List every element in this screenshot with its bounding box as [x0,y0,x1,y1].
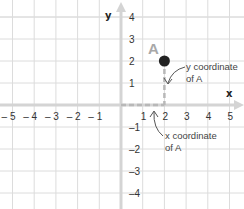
y-tick-label: –3 [129,166,141,177]
y-tick-label: 2 [129,56,135,67]
x-tick-label: – 5 [2,111,16,122]
x-tick-label: 1 [141,111,147,122]
y-tick-label: –1 [129,122,141,133]
y-tick-label: –2 [129,144,141,155]
x-axis-label: x [226,88,233,99]
y-tick-label: 3 [129,34,135,45]
x-tick-label: – 2 [67,111,81,122]
point-a-dot [159,56,170,67]
coordinate-plane-diagram: x y – 5– 4– 3– 2– 1123454321–1–2–3–4 A y… [0,0,244,209]
x-axis-arrow-icon [234,100,244,110]
y-coordinate-label-line2: of A [186,73,203,84]
y-tick-label: 4 [129,12,135,23]
point-a: A [148,40,170,67]
coordinate-plane: x y – 5– 4– 3– 2– 1123454321–1–2–3–4 A y… [0,0,244,209]
y-tick-label: –4 [129,188,141,199]
point-label: A [148,40,159,57]
x-tick-label: 5 [228,111,234,122]
x-coordinate-label-line1: x coordinate [165,130,217,141]
x-coordinate-label-line2: of A [165,142,182,153]
y-tick-label: 1 [129,78,135,89]
x-tick-label: 2 [162,111,168,122]
x-tick-label: – 3 [45,111,59,122]
x-tick-label: – 4 [23,111,37,122]
x-tick-label: – 1 [88,111,102,122]
x-tick-label: 3 [184,111,190,122]
y-coordinate-label-line1: y coordinate [186,61,238,72]
y-coordinate-annotation: y coordinate of A [164,61,238,84]
x-tick-label: 4 [206,111,212,122]
y-axis-label: y [105,10,112,21]
y-axis-arrow-icon [116,2,126,12]
